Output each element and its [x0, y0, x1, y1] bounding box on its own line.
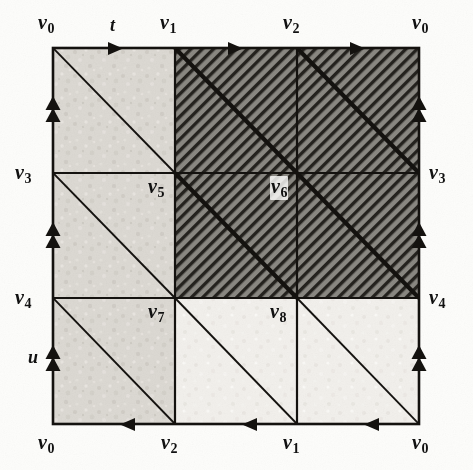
edge-label-u: u [28, 348, 38, 366]
paper-grain-overlay [0, 0, 473, 470]
vertex-label-bottom-3: v0 [412, 432, 428, 456]
vertex-label-v8: v8 [270, 301, 286, 325]
vertex-label-left-1: v3 [15, 162, 31, 186]
torus-triangulation-figure [0, 0, 473, 470]
vertex-label-right-1: v3 [429, 162, 445, 186]
vertex-label-v7: v7 [148, 301, 164, 325]
vertex-label-top-1: v1 [160, 12, 176, 36]
vertex-label-top-2: v2 [283, 12, 299, 36]
vertex-label-right-2: v4 [429, 287, 445, 311]
edge-label-t: t [110, 16, 115, 34]
vertex-label-bottom-2: v1 [283, 432, 299, 456]
vertex-label-bottom-0: v0 [38, 432, 54, 456]
vertex-label-v5: v5 [148, 176, 164, 200]
vertex-label-v6: v6 [270, 176, 288, 200]
vertex-label-top-0: v0 [38, 12, 54, 36]
vertex-label-top-3: v0 [412, 12, 428, 36]
vertex-label-left-2: v4 [15, 287, 31, 311]
vertex-label-bottom-1: v2 [161, 432, 177, 456]
